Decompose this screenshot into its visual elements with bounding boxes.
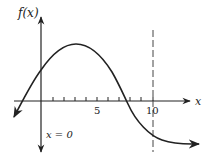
function-curve bbox=[14, 44, 199, 144]
tick-label-5: 5 bbox=[94, 105, 100, 116]
function-plot: f(x) x 5 10 x = 0 bbox=[0, 0, 210, 158]
y-axis-label: f(x) bbox=[17, 6, 39, 20]
x-equals-zero-annotation: x = 0 bbox=[46, 129, 73, 140]
tick-label-10: 10 bbox=[146, 105, 159, 116]
x-axis-label: x bbox=[195, 95, 202, 108]
